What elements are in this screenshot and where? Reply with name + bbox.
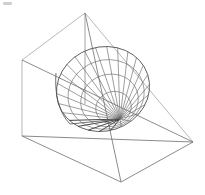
cone-generatrix xyxy=(120,65,143,119)
box-edge-left-to-right-diagonal xyxy=(22,60,193,142)
cone-cross-section-ring xyxy=(59,50,153,139)
figure-canvas xyxy=(0,0,205,195)
cone-generatrix-lines xyxy=(57,47,150,132)
box-edge-bottom-to-right xyxy=(121,142,193,182)
wireframe-box xyxy=(22,13,193,182)
box-edge-left-bottom-to-bottom xyxy=(22,136,121,182)
cone-cross-section-ring xyxy=(92,87,136,128)
wireframe-figure xyxy=(0,0,205,195)
cone-generatrix xyxy=(61,73,120,119)
box-edge-apex-to-left xyxy=(22,13,85,60)
cone-generatrix xyxy=(96,48,121,119)
cone-base-ellipse xyxy=(45,35,160,144)
box-edge-apex-to-bottom xyxy=(85,13,121,182)
scan-speck xyxy=(3,2,12,5)
cone-cross-section-rings xyxy=(59,50,153,139)
cone-solid xyxy=(45,35,160,144)
cone-cross-section-ring xyxy=(74,67,145,134)
box-edge-left-bottom-to-right xyxy=(22,136,193,142)
